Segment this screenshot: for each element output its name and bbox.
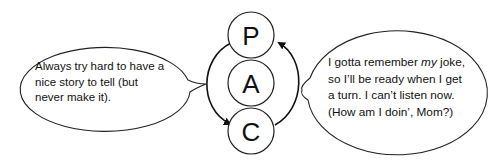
label-p: P: [242, 21, 259, 51]
label-c: C: [242, 117, 261, 147]
right-bubble-text: I gotta remember my joke, so I’ll be rea…: [328, 54, 465, 120]
left-bubble-text: Always try hard to have a nice story to …: [35, 59, 164, 106]
right-bubble-line: so I’ll be ready when I get: [328, 71, 465, 88]
left-bubble-line: never make it).: [35, 90, 164, 106]
arrow-child-to-parent: [275, 43, 299, 125]
label-a: A: [242, 69, 260, 99]
pac-diagram: P A C Always try hard to have a nice sto…: [0, 0, 502, 165]
right-bubble-line: (How am I doin’, Mom?): [328, 104, 465, 121]
left-bubble-line: nice story to tell (but: [35, 75, 164, 91]
arrow-parent-to-child: [207, 43, 231, 124]
left-bubble-line: Always try hard to have a: [35, 59, 164, 75]
right-bubble-line: I gotta remember my joke,: [328, 54, 465, 71]
right-bubble-line: a turn. I can’t listen now.: [328, 87, 465, 104]
